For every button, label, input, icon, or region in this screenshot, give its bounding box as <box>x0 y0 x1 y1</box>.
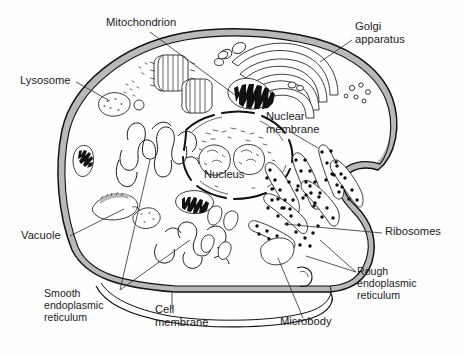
vacuole-body <box>92 192 140 220</box>
cell-diagram-canvas: Mitochondrion Golgi apparatus Lysosome N… <box>0 0 464 355</box>
label-nuclear-membrane-line-1: membrane <box>266 123 319 135</box>
leader-rough-er-a <box>320 240 356 272</box>
label-golgi: Golgi apparatus <box>355 20 405 45</box>
label-rough-er-line-2: reticulum <box>357 289 400 301</box>
label-vacuole-line-0: Vacuole <box>21 229 61 241</box>
label-nucleus-line-0: Nucleus <box>204 168 245 180</box>
membrane-invagination <box>297 267 312 286</box>
cell-diagram: Mitochondrion Golgi apparatus Lysosome N… <box>0 0 464 355</box>
label-microbody: Microbody <box>280 315 332 327</box>
label-ribosomes: Ribosomes <box>385 225 441 237</box>
label-mitochondrion: Mitochondrion <box>106 16 176 28</box>
vesicle-cluster <box>344 83 370 103</box>
label-smooth-er-line-2: reticulum <box>44 311 87 323</box>
centriole-pair <box>150 55 212 113</box>
lysosome-body <box>99 93 131 117</box>
microbody-body <box>261 238 294 265</box>
leader-rough-er-b <box>306 256 356 272</box>
mitochondrion-left <box>73 145 94 176</box>
label-smooth-er-line-0: Smooth <box>44 287 81 299</box>
label-lysosome: Lysosome <box>20 74 71 86</box>
label-rough-er-line-0: Rough <box>357 265 388 277</box>
label-cell-membrane-line-1: membrane <box>155 316 208 328</box>
smooth-er-network <box>116 122 199 187</box>
label-nuclear-membrane-line-0: Nuclear <box>266 110 305 122</box>
label-mitochondrion-line-0: Mitochondrion <box>106 16 176 28</box>
label-nucleus: Nucleus <box>204 168 245 180</box>
label-smooth-er-line-1: endoplasmic <box>44 299 104 311</box>
label-lysosome-line-0: Lysosome <box>20 74 71 86</box>
label-rough-er-line-1: endoplasmic <box>357 277 417 289</box>
label-vacuole: Vacuole <box>21 229 61 241</box>
label-smooth-er: Smooth endoplasmic reticulum <box>44 287 104 323</box>
mitochondrion-center <box>176 191 214 214</box>
smooth-er-lower <box>155 222 229 268</box>
label-ribosomes-line-0: Ribosomes <box>385 225 441 237</box>
label-cell-membrane-line-0: Cell <box>155 303 174 315</box>
label-golgi-line-1: apparatus <box>355 33 405 45</box>
label-microbody-line-0: Microbody <box>280 315 332 327</box>
label-golgi-line-0: Golgi <box>355 20 381 32</box>
label-rough-er: Rough endoplasmic reticulum <box>357 265 417 301</box>
label-cell-membrane: Cell membrane <box>155 303 208 328</box>
